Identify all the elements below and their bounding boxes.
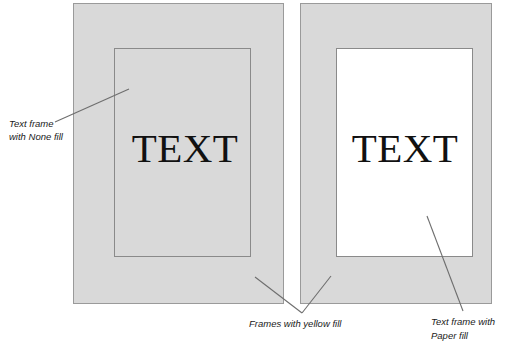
callout-yellow-fill-line1: Frames with yellow fill	[249, 317, 341, 330]
sample-text-left: TEXT	[125, 128, 245, 169]
callout-none-fill-line2: with None fill	[9, 130, 63, 143]
callout-paper-fill-line1: Text frame with	[431, 315, 495, 329]
callout-yellow-fill: Frames with yellow fill	[249, 317, 341, 330]
callout-none-fill-line1: Text frame	[9, 117, 63, 130]
callout-paper-fill-line2: Paper fill	[431, 329, 495, 343]
callout-paper-fill: Text frame with Paper fill	[431, 315, 495, 343]
figure-canvas: TEXT TEXT Text frame with None fill Fram…	[0, 0, 508, 345]
callout-none-fill: Text frame with None fill	[9, 117, 63, 143]
sample-text-right: TEXT	[345, 128, 465, 169]
